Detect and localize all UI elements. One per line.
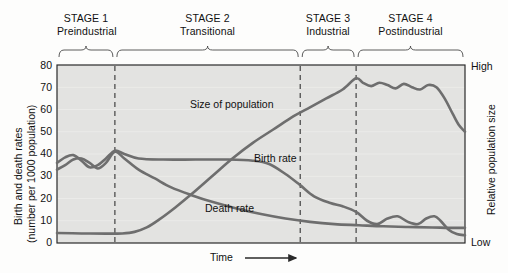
stage-1-subtitle: Preindustrial [57,25,115,38]
stage-header-2: STAGE 2 Transitional [115,12,300,37]
stage-2-name: STAGE 2 [115,12,300,25]
stage-3-subtitle: Industrial [300,25,356,38]
y2-axis-title: Relative population size [485,104,497,215]
stage-header-1: STAGE 1 Preindustrial [57,12,115,37]
stage-header-4: STAGE 4 Postindustrial [356,12,465,37]
right-tick-high: High [471,60,493,72]
stage-2-subtitle: Transitional [115,25,300,38]
birth-rate-curve-label: Birth rate [254,152,297,164]
stage-3-name: STAGE 3 [300,12,356,25]
stage-brackets [59,46,463,57]
stage-header-3: STAGE 3 Industrial [300,12,356,37]
stage-4-subtitle: Postindustrial [356,25,465,38]
population-curve-label: Size of population [190,98,273,110]
death-rate-curve-label: Death rate [205,202,254,214]
demographic-transition-chart [0,0,508,273]
right-tick-low: Low [471,236,490,248]
figure-canvas: STAGE 1 Preindustrial STAGE 2 Transition… [0,0,508,273]
y-axis-title-line1: Birth and death rates [12,128,24,225]
x-axis-label: Time [210,251,233,263]
stage-1-name: STAGE 1 [57,12,115,25]
stage-4-name: STAGE 4 [356,12,465,25]
y-tick-80: 80 [32,59,52,71]
y-axis-title-line2: (number per 1000 population) [25,105,37,243]
y-tick-70: 70 [32,81,52,93]
